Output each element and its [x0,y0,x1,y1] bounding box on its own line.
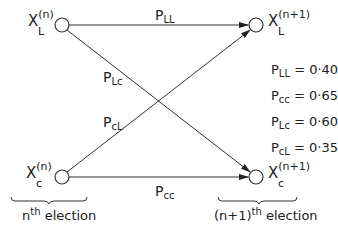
node-label-left-bottom: X(n) c [26,166,52,181]
subscript: L [38,26,44,37]
node-label-left-top: X(n) L [28,14,54,29]
superscript: th [30,206,40,217]
symbol: P [271,88,279,103]
subscript: Lc [279,120,290,131]
label: election [266,208,318,223]
subscript: cL [111,121,122,132]
subscript: LL [279,68,290,79]
symbol: X [26,164,36,182]
node-label-right-top: X(n+1) L [268,14,310,29]
value-p-ll: PLL = 0·40 [271,63,338,76]
prefix: n [22,208,30,223]
symbol: X [268,12,278,30]
node-label-right-bottom: X(n+1) c [268,166,310,181]
node-circle-left-bottom [55,170,69,184]
symbol: P [271,140,279,155]
election-label-right: (n+1)th election [214,209,318,222]
edge-label-ll: PLL [155,8,175,22]
node-circle-right-top [249,18,263,32]
subscript: c [36,178,42,189]
edge-label-cl: PcL [103,115,123,129]
subscript: LL [163,14,174,25]
brace-right [218,197,297,204]
subscript: L [278,26,284,37]
subscript: cc [163,190,174,201]
election-label-left: nth election [22,209,96,222]
label: election [45,208,97,223]
node-circle-left-top [55,18,69,32]
superscript: (n) [38,8,54,21]
superscript: th [252,206,262,217]
node-circle-right-bottom [249,170,263,184]
superscript: (n+1) [278,160,310,173]
edge-label-lc: PLc [103,70,123,84]
symbol: X [268,164,278,182]
value-p-cc: Pcc = 0·65 [271,89,338,102]
symbol: P [271,114,279,129]
value: = 0·65 [294,88,338,103]
symbol: P [271,62,279,77]
value: = 0·40 [294,62,338,77]
brace-left [11,197,87,204]
value-p-cl: PcL = 0·35 [271,141,338,154]
value: = 0·60 [294,114,338,129]
superscript: (n) [36,160,52,173]
subscript: cc [279,94,290,105]
symbol: X [28,12,38,30]
subscript: c [278,178,284,189]
value-p-lc: PLc = 0·60 [271,115,338,128]
superscript: (n+1) [278,8,310,21]
prefix: (n+1) [214,208,252,223]
edge-label-cc: Pcc [155,184,174,198]
subscript: Lc [111,76,122,87]
value: = 0·35 [294,140,338,155]
subscript: cL [279,146,290,157]
